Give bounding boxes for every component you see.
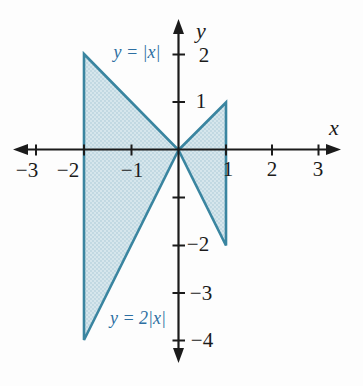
x-tick-label-neg3: −3 [16,160,38,181]
x-tick-label-2: 2 [267,159,278,180]
x-tick-label-3: 3 [313,159,324,180]
y-axis-bottom-arrow-icon [173,348,184,363]
x-axis-right-arrow-icon [326,144,341,155]
y-tick-label-neg2: −2 [187,234,209,255]
x-tick-label-neg1: −1 [121,160,143,181]
x-tick-label-1: 1 [223,159,234,180]
graph-canvas [0,0,363,386]
y-tick-label-neg3: −3 [190,283,212,304]
left-shaded-region [84,54,179,340]
y-tick-label-2: 2 [199,45,210,66]
y-tick-label-neg4: −4 [191,330,213,351]
right-shaded-region [179,103,227,246]
y-axis-top-arrow-icon [173,19,184,34]
equation-label-lower: y = 2|x| [110,309,166,327]
x-axis-label: x [329,117,339,139]
y-axis-label: y [196,20,206,42]
y-tick-label-1: 1 [196,91,207,112]
absolute-value-graph-figure: y = |x| y = 2|x| x y −3 −2 −1 1 2 3 2 1 … [0,0,363,386]
x-tick-label-neg2: −2 [57,160,79,181]
equation-label-upper: y = |x| [113,43,160,61]
x-axis-left-arrow-icon [13,144,28,155]
